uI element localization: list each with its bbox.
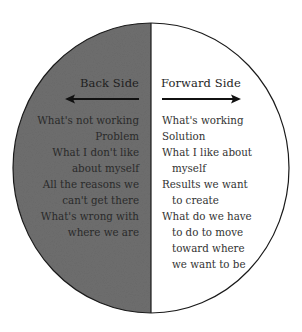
forward-side-item: to create (162, 192, 252, 208)
forward-side-item: What's working (162, 112, 252, 128)
forward-side-heading: Forward Side (161, 76, 241, 90)
back-forward-circle-diagram: Back Side Forward Side What's not workin… (0, 0, 302, 332)
back-side-item: can't get there (37, 192, 139, 208)
forward-side-item: we want to be (162, 256, 252, 272)
forward-side-item: Results we want (162, 176, 252, 192)
back-side-item: What's not working (37, 112, 139, 128)
back-side-item: about myself (37, 160, 139, 176)
forward-side-item: Solution (162, 128, 252, 144)
back-side-item: Problem (37, 128, 139, 144)
back-side-heading: Back Side (80, 76, 139, 90)
back-side-item: where we are (37, 224, 139, 240)
back-side-item: What's wrong with (37, 208, 139, 224)
forward-side-item: What do we have (162, 208, 252, 224)
forward-side-item: myself (162, 160, 252, 176)
forward-side-list: What's working Solution What I like abou… (162, 112, 252, 272)
back-side-item: All the reasons we (37, 176, 139, 192)
back-side-item: What I don't like (37, 144, 139, 160)
back-side-list: What's not working Problem What I don't … (37, 112, 139, 240)
forward-side-item: toward where (162, 240, 252, 256)
forward-side-item: What I like about (162, 144, 252, 160)
forward-side-item: to do to move (162, 224, 252, 240)
